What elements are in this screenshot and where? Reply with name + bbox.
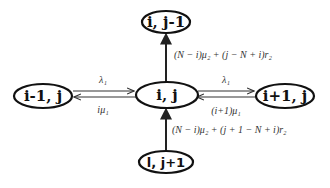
edge-label-right-back: (i+1)μ₁ (211, 105, 241, 117)
node-left-label: i-1, j (24, 87, 62, 105)
state-transition-diagram: i, j-1 i, j i-1, j i+1, j l, j+1 (N − i)… (0, 0, 330, 188)
edge-label-center-to-top: (N − i)μ₂ + (j − N + i)r₂ (174, 49, 272, 61)
edge-label-left-back: iμ₁ (97, 104, 108, 115)
edge-label-right-forward: λ₁ (221, 74, 230, 85)
node-left: i-1, j (14, 84, 72, 108)
node-top-label: i, j-1 (147, 13, 185, 31)
edge-label-left-forward: λ₁ (98, 74, 107, 85)
node-bottom: l, j+1 (139, 151, 193, 173)
node-right: i+1, j (256, 84, 314, 108)
node-right-label: i+1, j (263, 87, 308, 105)
edge-label-bottom-to-center: (N − i)μ₂ + (j + 1 − N + i)r₂ (172, 124, 287, 136)
node-center: i, j (136, 82, 198, 108)
node-bottom-label: l, j+1 (147, 155, 185, 170)
node-top: i, j-1 (142, 11, 190, 33)
node-center-label: i, j (156, 86, 178, 104)
